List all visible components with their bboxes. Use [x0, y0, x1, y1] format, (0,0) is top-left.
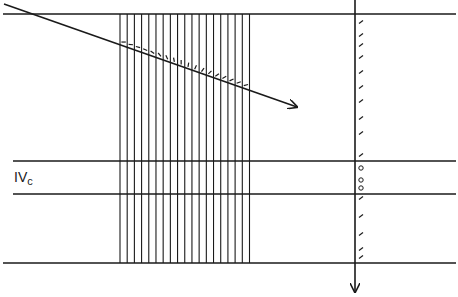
orientation-tick — [151, 51, 155, 54]
orientation-tick — [222, 76, 226, 78]
orientation-tick — [359, 71, 363, 74]
orientation-tick — [208, 71, 211, 74]
diagonal-penetration-arrow — [4, 4, 297, 107]
orientation-column-diagram — [0, 0, 458, 297]
orientation-tick — [174, 58, 175, 62]
orientation-tick — [359, 132, 363, 135]
orientation-tick — [201, 68, 204, 72]
orientation-tick — [359, 256, 363, 259]
orientation-tick — [359, 86, 363, 89]
vertical-orientation-markers — [359, 21, 363, 259]
orientation-tick — [359, 34, 363, 37]
orientation-tick — [136, 47, 140, 48]
orientation-tick — [359, 248, 363, 251]
orientation-tick — [166, 55, 168, 59]
orientation-tick — [359, 117, 363, 120]
orientation-tick — [359, 100, 363, 103]
layer-ivc-label: IVc — [14, 170, 33, 187]
orientation-tick — [359, 154, 363, 157]
orientation-tick — [230, 79, 234, 81]
orientation-tick — [143, 49, 147, 51]
unoriented-circle-marker — [359, 166, 363, 170]
orientation-tick — [158, 53, 161, 56]
orientation-tick — [237, 82, 241, 84]
unoriented-circle-marker — [359, 186, 363, 190]
horizontal-layer-boundaries — [3, 14, 456, 263]
orientation-tick — [188, 63, 189, 67]
orientation-tick — [359, 56, 363, 59]
orientation-tick — [359, 44, 363, 47]
orientation-tick — [359, 21, 363, 24]
orientation-tick — [195, 65, 197, 69]
orientation-tick — [359, 233, 363, 236]
orientation-tick — [215, 74, 219, 77]
orientation-tick — [359, 215, 363, 218]
unoriented-circle-marker — [359, 178, 363, 182]
orientation-tick — [359, 197, 363, 200]
layer-label-sub: c — [27, 175, 33, 187]
orientation-tick — [244, 84, 248, 85]
layer-label-main: IV — [14, 169, 27, 185]
